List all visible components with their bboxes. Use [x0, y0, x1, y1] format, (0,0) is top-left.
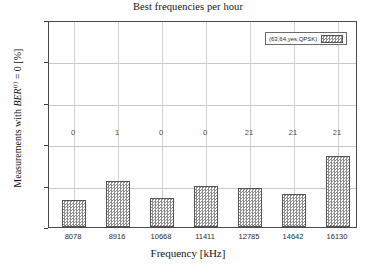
bar-14642: [282, 194, 306, 227]
y-axis-label-suffix: = 0 [%]: [12, 49, 23, 82]
legend-swatch-icon: [321, 35, 343, 43]
chart-title: Best frequencies per hour: [0, 1, 376, 12]
bar-value-label-11411: 0: [203, 128, 207, 137]
bar-8916: [106, 181, 130, 227]
bar-8078: [62, 200, 86, 227]
bar-value-label-12785: 21: [245, 128, 253, 137]
chart-figure: Best frequencies per hour 0 20 40 60 80 …: [0, 0, 376, 273]
x-tick-label-11411: 11411: [195, 232, 215, 241]
legend-entry-label: (63,64,yes,QPSK): [269, 36, 317, 42]
x-tick-label-8078: 8078: [65, 232, 82, 241]
bar-value-label-14642: 21: [289, 128, 297, 137]
bar-11411: [194, 186, 218, 227]
gridline-horizontal-80: [49, 63, 356, 64]
x-axis-label: Frequency [kHz]: [0, 247, 376, 259]
bar-10668: [150, 198, 174, 227]
x-tick-label-14642: 14642: [283, 232, 304, 241]
x-tick-label-10668: 10668: [151, 232, 172, 241]
x-tick-label-12785: 12785: [239, 232, 260, 241]
chart-legend: (63,64,yes,QPSK): [265, 32, 347, 45]
x-tick-label-16130: 16130: [327, 232, 348, 241]
gridline-horizontal-60: [49, 105, 356, 106]
plot-area: (63,64,yes,QPSK): [48, 21, 357, 228]
y-axis-label-prefix: Measurements with: [12, 107, 23, 188]
gridline-horizontal-40: [49, 146, 356, 147]
bar-value-label-16130: 21: [333, 128, 341, 137]
y-axis-label-symbol: BER: [12, 88, 23, 106]
bar-value-label-10668: 0: [159, 128, 163, 137]
gridline-vertical-3: [162, 22, 163, 227]
gridline-vertical-1: [74, 22, 75, 227]
y-axis-label: Measurements with BER(r) = 0 [%]: [11, 18, 23, 218]
bar-16130: [326, 156, 350, 227]
bar-value-label-8078: 0: [71, 128, 75, 137]
x-tick-label-8916: 8916: [109, 232, 126, 241]
y-axis-label-superscript: (r): [11, 82, 18, 89]
bar-value-label-8916: 1: [115, 128, 119, 137]
bar-12785: [238, 188, 262, 227]
y-tick-mark-0: [44, 228, 48, 229]
